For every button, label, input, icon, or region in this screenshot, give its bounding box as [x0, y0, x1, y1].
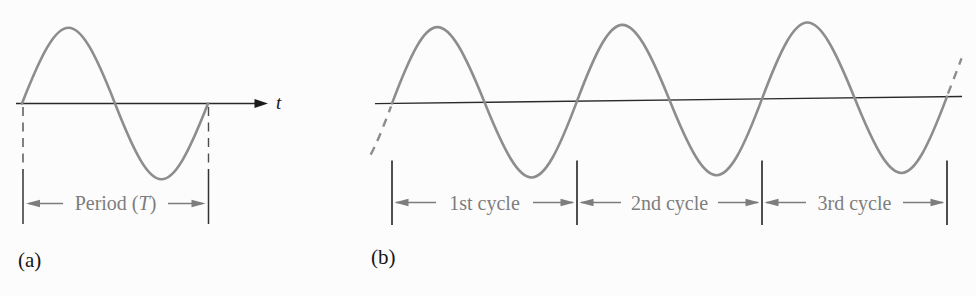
time-axis-arrowhead-icon [255, 99, 269, 108]
period-arrow-right-head-icon [192, 200, 206, 208]
cycle2-arrow-left-head-icon [580, 199, 594, 207]
sine-curve-three-cycles [391, 21, 948, 179]
figure-canvas: Period (T) t (a) 1st cycle 2nd cycle 3rd… [0, 0, 976, 296]
panel-b-tag: (b) [371, 245, 396, 269]
cycle-label-2: 2nd cycle [621, 192, 718, 215]
period-label: Period (T) [63, 192, 168, 215]
wave-dashed-lead-in [370, 106, 392, 154]
cycle2-arrow-right-head-icon [746, 199, 760, 207]
cycle3-arrow-left-head-icon [765, 199, 779, 207]
cycle1-arrow-right-head-icon [561, 199, 575, 207]
cycle1-arrow-left-head-icon [395, 199, 409, 207]
sine-wave-three-cycles-graphic [330, 0, 976, 296]
cycle3-arrow-right-head-icon [931, 199, 945, 207]
cycle-label-1: 1st cycle [436, 192, 533, 215]
period-label-suffix: ) [150, 192, 157, 214]
axis-label-t: t [276, 93, 281, 113]
wave-dashed-tail [948, 58, 962, 93]
period-arrow-left-head-icon [26, 200, 40, 208]
sine-wave-single-cycle-graphic [0, 0, 330, 296]
panel-a-tag: (a) [18, 248, 41, 272]
period-symbol: T [139, 192, 150, 214]
cycle-label-3: 3rd cycle [806, 192, 903, 215]
tilted-wave-group [369, 21, 963, 180]
period-label-prefix: Period ( [75, 192, 139, 214]
